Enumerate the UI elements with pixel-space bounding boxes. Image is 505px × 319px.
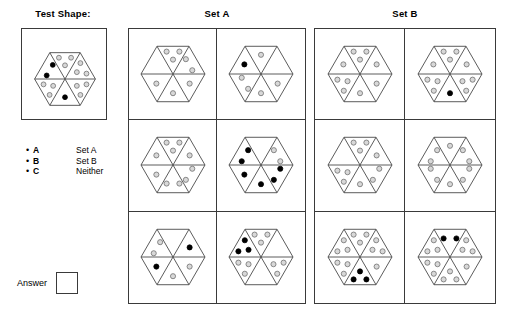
dot-gray: [278, 159, 283, 164]
dot-black: [153, 264, 158, 269]
dot-black: [63, 95, 68, 100]
set-b-cell-r1-c0[interactable]: [315, 120, 405, 211]
answer-row: Answer: [17, 272, 78, 294]
dot-gray: [176, 141, 181, 146]
dot-black: [258, 182, 263, 187]
test-shape-column: Test Shape: • A Set A • B Set B • C Neit…: [0, 0, 126, 319]
dot-gray: [441, 49, 446, 54]
dot-gray: [373, 238, 378, 243]
dot-gray: [164, 49, 169, 54]
dot-gray: [164, 181, 169, 186]
set-b-title: Set B: [314, 8, 496, 19]
set-a-cell-r2-c0[interactable]: [129, 212, 217, 303]
dot-gray: [344, 248, 349, 253]
dot-gray: [376, 167, 381, 172]
set-b-cell-r2-c0[interactable]: [315, 212, 405, 303]
legend-value-a: Set A: [76, 145, 96, 156]
dot-gray: [341, 272, 346, 277]
dot-gray: [464, 88, 469, 93]
set-a-cell-r1-c1[interactable]: [217, 120, 305, 211]
dot-gray: [239, 75, 244, 80]
legend-key-b: B: [33, 156, 76, 167]
dot-black: [239, 159, 244, 164]
dot-gray: [464, 264, 469, 269]
dot-black: [441, 236, 446, 241]
dot-gray: [351, 49, 356, 54]
dot-gray: [258, 240, 263, 245]
dot-gray: [281, 260, 286, 265]
dot-gray: [428, 167, 433, 172]
dot-gray: [236, 260, 241, 265]
dot-gray: [344, 79, 349, 84]
dot-gray: [170, 91, 175, 96]
dot-gray: [170, 274, 175, 279]
dot-black: [246, 148, 251, 153]
dot-gray: [176, 181, 181, 186]
set-a-title: Set A: [128, 8, 306, 19]
dot-black: [363, 277, 368, 282]
dot-gray: [380, 249, 385, 254]
dot-gray: [246, 86, 251, 91]
set-a-cell-r1-c0[interactable]: [129, 120, 217, 211]
dot-gray: [187, 153, 192, 158]
dot-black: [236, 249, 241, 254]
dot-gray: [374, 62, 379, 67]
dot-gray: [357, 57, 362, 62]
dot-gray: [74, 83, 79, 88]
dot-black: [454, 236, 459, 241]
dot-gray: [334, 77, 339, 82]
dot-gray: [363, 232, 368, 237]
dot-gray: [363, 141, 368, 146]
dot-black: [242, 173, 247, 178]
dot-gray: [183, 178, 188, 183]
dot-gray: [357, 91, 362, 96]
set-b-cell-r2-c1[interactable]: [405, 212, 495, 303]
dot-gray: [187, 264, 192, 269]
dot-gray: [467, 167, 472, 172]
dot-gray: [164, 141, 169, 146]
dot-gray: [435, 248, 440, 253]
set-b-cell-r0-c1[interactable]: [405, 29, 495, 120]
dot-gray: [369, 248, 374, 253]
dot-gray: [344, 262, 349, 267]
dot-gray: [47, 92, 52, 97]
set-b-cell-r0-c0[interactable]: [315, 29, 405, 120]
dot-gray: [183, 57, 188, 62]
legend-item-c: • C Neither: [26, 166, 103, 177]
dot-gray: [351, 232, 356, 237]
legend-item-a: • A Set A: [26, 145, 103, 156]
test-shape-title: Test Shape:: [0, 8, 126, 19]
dot-gray: [454, 277, 459, 282]
dot-gray: [78, 92, 83, 97]
dot-black: [50, 62, 55, 67]
test-shape-hexagon: [27, 41, 103, 117]
set-a-cell-r0-c1[interactable]: [217, 29, 305, 120]
set-a-cell-r0-c0[interactable]: [129, 29, 217, 120]
dot-gray: [425, 77, 430, 82]
dot-gray: [363, 49, 368, 54]
set-b-cell-r1-c1[interactable]: [405, 120, 495, 211]
dot-gray: [374, 264, 379, 269]
dot-gray: [341, 238, 346, 243]
dot-gray: [470, 249, 475, 254]
dot-gray: [189, 68, 194, 73]
dot-black: [44, 73, 49, 78]
dot-gray: [470, 77, 475, 82]
legend-value-c: Neither: [76, 166, 103, 177]
dot-gray: [464, 62, 469, 67]
dot-gray: [271, 262, 276, 267]
dot-gray: [464, 238, 469, 243]
dot-gray: [374, 81, 379, 86]
dot-gray: [425, 249, 430, 254]
dot-gray: [275, 81, 280, 86]
dot-gray: [242, 272, 247, 277]
dot-gray: [467, 159, 472, 164]
dot-gray: [435, 262, 440, 267]
answer-input-box[interactable]: [56, 272, 78, 294]
legend-bullet-icon: •: [26, 156, 33, 167]
dot-gray: [447, 182, 452, 187]
dot-gray: [435, 79, 440, 84]
set-a-cell-r2-c1[interactable]: [217, 212, 305, 303]
legend-bullet-icon: •: [26, 145, 33, 156]
dot-gray: [271, 148, 276, 153]
